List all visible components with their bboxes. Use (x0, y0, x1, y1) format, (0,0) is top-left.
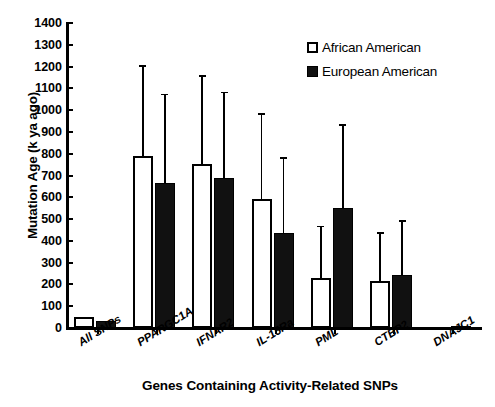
y-tick: 900 (67, 131, 73, 133)
y-tick: 700 (67, 175, 73, 177)
error-bar-cap (317, 226, 324, 228)
legend-label-african-american: African American (322, 40, 421, 55)
error-bar-cap (339, 124, 346, 126)
y-tick-label: 900 (41, 125, 62, 139)
y-tick-label: 300 (41, 256, 62, 270)
y-tick: 1000 (67, 109, 73, 111)
error-bar-stem (401, 220, 403, 274)
bar (192, 164, 212, 328)
bar (214, 178, 234, 328)
legend-item-african-american: African American (307, 40, 437, 55)
legend-item-european-american: European American (307, 64, 437, 79)
error-bar-stem (379, 232, 381, 281)
error-bar-cap (199, 75, 206, 77)
y-tick: 500 (67, 218, 73, 220)
bar (333, 208, 353, 328)
bar (155, 183, 175, 328)
y-tick-label: 1200 (34, 60, 62, 74)
bar (133, 156, 153, 328)
y-tick-label: 200 (41, 277, 62, 291)
error-bar-stem (164, 94, 166, 183)
y-tick: 300 (67, 262, 73, 264)
y-tick: 100 (67, 305, 73, 307)
legend-label-european-american: European American (322, 64, 437, 79)
y-tick-label: 600 (41, 190, 62, 204)
error-bar-stem (223, 92, 225, 178)
y-tick-label: 500 (41, 212, 62, 226)
x-axis-title: Genes Containing Activity-Related SNPs (60, 378, 480, 393)
y-tick-label: 1100 (35, 81, 62, 95)
y-tick: 600 (67, 196, 73, 198)
y-tick: 0 (67, 327, 73, 329)
y-tick: 200 (67, 283, 73, 285)
error-bar-stem (201, 75, 203, 163)
error-bar-stem (261, 113, 263, 199)
error-bar-cap (139, 65, 146, 67)
bar (370, 281, 390, 328)
y-tick: 1100 (67, 87, 73, 89)
bar (274, 233, 294, 328)
legend-swatch-open-icon (307, 42, 318, 53)
y-tick-label: 400 (41, 234, 62, 248)
bar (74, 317, 94, 328)
error-bar-cap (161, 94, 168, 96)
error-bar-stem (342, 124, 344, 208)
y-tick-label: 1000 (34, 103, 62, 117)
y-tick-label: 1400 (34, 16, 62, 30)
y-tick-label: 1300 (34, 38, 62, 52)
error-bar-cap (399, 220, 406, 222)
bar (252, 199, 272, 328)
error-bar-stem (142, 65, 144, 155)
bar (311, 278, 331, 328)
y-tick-label: 0 (55, 321, 62, 335)
y-tick: 800 (67, 153, 73, 155)
error-bar-cap (221, 92, 228, 94)
y-tick-label: 700 (41, 169, 62, 183)
chart-legend: African American European American (307, 40, 437, 88)
y-tick: 1300 (67, 44, 73, 46)
y-tick-label: 100 (41, 299, 62, 313)
chart-figure: Mutation Age (k ya ago) Genes Containing… (0, 0, 495, 407)
y-tick: 1400 (67, 22, 73, 24)
error-bar-cap (377, 232, 384, 234)
error-bar-stem (283, 157, 285, 233)
error-bar-cap (280, 157, 287, 159)
error-bar-stem (320, 226, 322, 278)
legend-swatch-filled-icon (307, 66, 318, 77)
y-tick: 400 (67, 240, 73, 242)
y-tick-label: 800 (41, 147, 62, 161)
y-tick: 1200 (67, 66, 73, 68)
error-bar-cap (258, 113, 265, 115)
